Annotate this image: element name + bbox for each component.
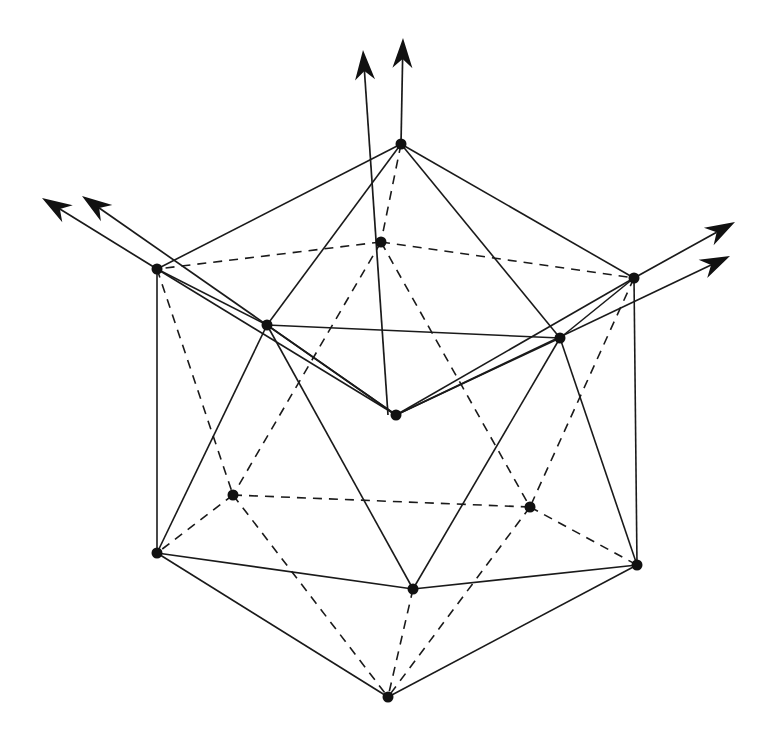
vertex-L bbox=[152, 264, 163, 275]
icosahedron-diagram bbox=[0, 0, 772, 738]
hidden-edge-BL-BR bbox=[233, 495, 530, 507]
vertex-F bbox=[408, 584, 419, 595]
edge-FL-F bbox=[267, 325, 413, 589]
arrow-shaft bbox=[401, 59, 403, 144]
arrow-right-outer bbox=[634, 222, 735, 278]
diagram-canvas bbox=[0, 0, 772, 738]
vertex-B bbox=[376, 237, 387, 248]
arrow-shaft bbox=[396, 265, 711, 415]
vertex-R bbox=[629, 273, 640, 284]
arrow-up-left bbox=[355, 50, 388, 415]
edge-T-L bbox=[157, 144, 401, 269]
hidden-edge-BR-Bot bbox=[388, 507, 530, 697]
hidden-edge-B-BR bbox=[381, 242, 530, 507]
edge-F-RL bbox=[413, 565, 637, 589]
edge-T-FR bbox=[401, 144, 560, 338]
edge-T-FL bbox=[267, 144, 401, 325]
arrow-shaft bbox=[634, 232, 717, 278]
vertex-FL bbox=[262, 320, 273, 331]
vertex-RL bbox=[632, 560, 643, 571]
vertex-C bbox=[391, 410, 402, 421]
arrowhead-icon bbox=[42, 198, 73, 222]
edge-FL-FR bbox=[267, 325, 560, 338]
edge-LL-F bbox=[157, 553, 413, 589]
vertices bbox=[152, 139, 643, 703]
edge-L-C bbox=[157, 269, 396, 415]
hidden-edge-B-L bbox=[157, 242, 381, 269]
vertex-LL bbox=[152, 548, 163, 559]
edge-T-R bbox=[401, 144, 634, 278]
vertex-Bot bbox=[383, 692, 394, 703]
hidden-edges bbox=[157, 144, 637, 697]
arrowhead-icon bbox=[82, 196, 112, 221]
arrowhead-icon bbox=[704, 222, 735, 245]
vertex-BR bbox=[525, 502, 536, 513]
arrow-shaft bbox=[99, 208, 396, 415]
hidden-edge-BL-LL bbox=[157, 495, 233, 553]
edge-R-FR bbox=[560, 278, 634, 338]
visible-edges bbox=[157, 144, 637, 697]
edge-R-C bbox=[396, 278, 634, 415]
edge-LL-Bot bbox=[157, 553, 388, 697]
arrow-up-right bbox=[392, 38, 412, 144]
hidden-edge-L-BL bbox=[157, 269, 233, 495]
arrowhead-icon bbox=[699, 256, 730, 278]
edge-R-RL bbox=[634, 278, 637, 565]
vector-arrows bbox=[42, 38, 735, 415]
edge-FR-F bbox=[413, 338, 560, 589]
vertex-T bbox=[396, 139, 407, 150]
vertex-FR bbox=[555, 333, 566, 344]
edge-FL-LL bbox=[157, 325, 267, 553]
edge-RL-Bot bbox=[388, 565, 637, 697]
hidden-edge-R-BR bbox=[530, 278, 634, 507]
hidden-edge-B-R bbox=[381, 242, 634, 278]
edge-FR-RL bbox=[560, 338, 637, 565]
vertex-BL bbox=[228, 490, 239, 501]
hidden-edge-B-BL bbox=[233, 242, 381, 495]
hidden-edge-BL-Bot bbox=[233, 495, 388, 697]
